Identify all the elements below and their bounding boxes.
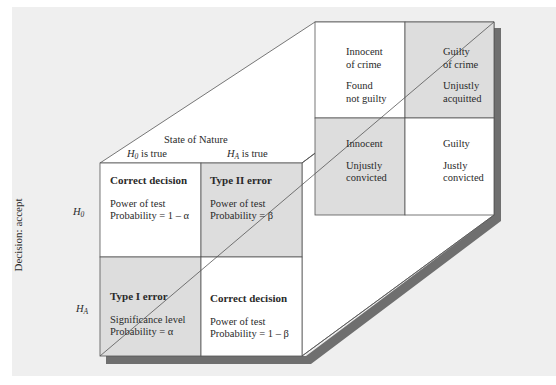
back-cell-3-text: Innocent Unjustlyconvicted: [346, 138, 387, 185]
back-cell-2-text: Guiltyof crime Unjustlyacquitted: [443, 46, 481, 105]
column-header-ha: HA is true: [227, 148, 268, 164]
back-cell-1-text: Innocentof crime Foundnot guilty: [346, 46, 387, 105]
decision-axis-label: Decision: accept: [12, 180, 24, 290]
row-label-ha: HA: [76, 303, 88, 319]
column-header-h0: H0 is true: [127, 148, 167, 164]
front-cell-2-text: Type II error Power of testProbability =…: [210, 174, 273, 223]
row-label-h0: H0: [73, 206, 84, 222]
back-cell-4-text: Guilty Justlyconvicted: [443, 138, 484, 185]
front-cell-3-text: Type I error Significance levelProbabili…: [110, 290, 186, 339]
front-cell-1-text: Correct decision Power of testProbabilit…: [110, 174, 189, 223]
front-cell-4-text: Correct decision Power of testProbabilit…: [210, 292, 289, 341]
state-of-nature-label: State of Nature: [164, 134, 228, 147]
